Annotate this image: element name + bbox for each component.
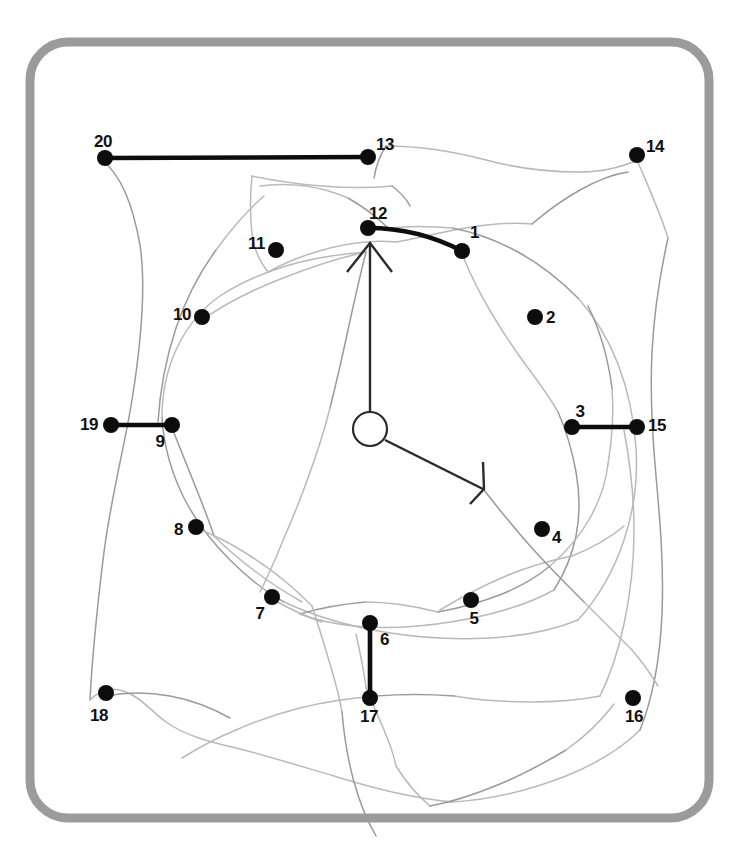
landmark-dot-11 — [268, 242, 284, 258]
landmark-dot-3 — [564, 419, 580, 435]
landmark-dot-5 — [463, 592, 479, 608]
landmark-label-1: 1 — [470, 223, 479, 242]
landmark-dot-20 — [97, 150, 113, 166]
landmark-dot-8 — [188, 519, 204, 535]
landmark-dot-10 — [194, 309, 210, 325]
landmark-label-9: 9 — [156, 432, 165, 451]
landmark-label-12: 12 — [369, 204, 387, 223]
landmark-label-14: 14 — [646, 137, 665, 156]
landmark-label-11: 11 — [248, 234, 265, 253]
clock-drawing-figure: 1234567891011121314151617181920 — [0, 0, 739, 859]
landmark-dot-7 — [264, 589, 280, 605]
landmark-label-5: 5 — [470, 609, 479, 628]
landmark-dot-19 — [103, 417, 119, 433]
landmark-label-15: 15 — [648, 416, 666, 435]
landmark-dot-15 — [629, 419, 645, 435]
landmark-dot-14 — [629, 147, 645, 163]
landmark-label-8: 8 — [174, 520, 183, 539]
landmark-dot-16 — [625, 690, 641, 706]
landmark-label-4: 4 — [552, 528, 562, 547]
landmark-label-18: 18 — [90, 706, 108, 725]
landmark-label-3: 3 — [576, 402, 585, 421]
segment-20-13 — [105, 157, 368, 158]
landmark-label-17: 17 — [360, 707, 378, 726]
landmark-dot-4 — [534, 521, 550, 537]
landmark-dot-1 — [454, 243, 470, 259]
landmark-label-6: 6 — [380, 630, 389, 649]
figure-canvas: 1234567891011121314151617181920 — [0, 0, 739, 859]
landmark-dot-17 — [362, 690, 378, 706]
landmark-label-20: 20 — [94, 132, 112, 151]
landmark-label-2: 2 — [546, 308, 555, 327]
landmark-label-19: 19 — [80, 415, 98, 434]
landmark-label-7: 7 — [256, 604, 265, 623]
landmark-dot-18 — [98, 685, 114, 701]
landmark-label-16: 16 — [625, 707, 643, 726]
landmark-dot-6 — [362, 615, 378, 631]
landmark-label-13: 13 — [376, 135, 394, 154]
landmark-dot-13 — [360, 149, 376, 165]
landmark-dot-2 — [527, 309, 543, 325]
landmark-dot-9 — [164, 417, 180, 433]
landmark-label-10: 10 — [173, 305, 191, 324]
